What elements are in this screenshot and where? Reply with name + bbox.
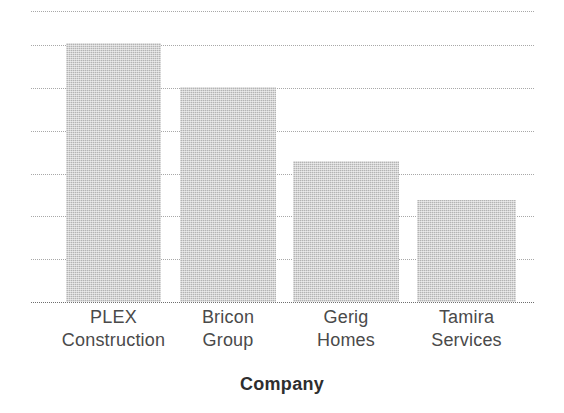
- bar-chart-figure: PLEXConstructionBriconGroupGerigHomesTam…: [0, 0, 564, 413]
- x-axis-label-line: Tamira: [387, 306, 547, 329]
- x-axis-category-labels: PLEXConstructionBriconGroupGerigHomesTam…: [0, 306, 564, 366]
- bar-2: [180, 87, 276, 302]
- bar-1: [66, 43, 161, 302]
- x-axis-title: Company: [0, 374, 564, 395]
- bar-3: [293, 161, 399, 302]
- plot-area: [0, 0, 564, 310]
- bars-layer: [0, 0, 564, 310]
- x-axis-label-line: Services: [387, 329, 547, 352]
- x-axis-label-4: TamiraServices: [387, 306, 547, 352]
- bar-4: [417, 200, 516, 302]
